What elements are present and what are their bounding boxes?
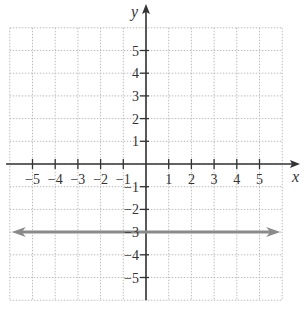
y-tick-label: 2	[132, 112, 139, 127]
y-tick-label: 3	[132, 89, 139, 104]
x-tick-label: 1	[165, 172, 172, 187]
y-tick-label: 5	[132, 44, 139, 59]
x-tick-label: 5	[256, 172, 263, 187]
coordinate-plane: −5−4−3−2−11234554321−1−2−3−4−5 x y	[0, 0, 304, 319]
y-tick-label: −1	[124, 180, 139, 195]
x-tick-label: −3	[70, 172, 85, 187]
y-tick-label: 4	[132, 66, 139, 81]
x-tick-label: 4	[233, 172, 240, 187]
y-axis-label: y	[129, 3, 139, 21]
y-tick-label: 1	[132, 134, 139, 149]
axes	[6, 4, 300, 300]
x-tick-label: −5	[25, 172, 40, 187]
x-axis-label: x	[291, 168, 299, 185]
y-tick-label: −4	[124, 248, 139, 263]
y-tick-label: −2	[124, 202, 139, 217]
y-tick-label: −3	[124, 225, 139, 240]
y-tick-label: −5	[124, 271, 139, 286]
x-tick-label: 3	[211, 172, 218, 187]
x-tick-label: 2	[188, 172, 195, 187]
x-tick-label: −4	[48, 172, 63, 187]
x-tick-label: −2	[93, 172, 108, 187]
